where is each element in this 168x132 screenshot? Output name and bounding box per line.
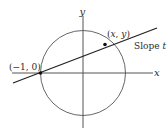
point-label-x-y: (x, y) (107, 29, 130, 39)
point-x-y (103, 43, 107, 47)
x-axis-label: x (154, 67, 160, 78)
slope-line (13, 28, 157, 83)
slope-label: Slope t (134, 41, 166, 51)
point-label-neg-one-zero: (−1, 0) (9, 62, 41, 72)
y-axis-label: y (79, 6, 86, 17)
unit-circle-diagram: y x (−1, 0) (x, y) Slope t (0, 0, 168, 132)
